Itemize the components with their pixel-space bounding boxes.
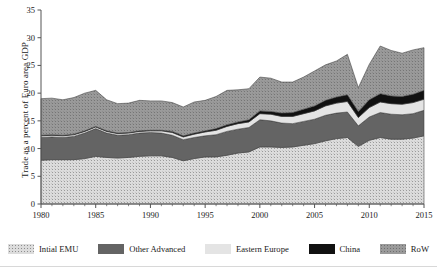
legend-swatch-other_advanced bbox=[98, 244, 124, 254]
chart-legend: Intial EMUOther AdvancedEastern EuropeCh… bbox=[0, 238, 437, 260]
area-series-group bbox=[41, 46, 424, 204]
x-tick-label: 1995 bbox=[197, 210, 214, 220]
y-tick-label: 35 bbox=[27, 5, 36, 15]
x-tick-label: 1980 bbox=[33, 210, 50, 220]
y-tick-label: 30 bbox=[27, 33, 36, 43]
y-tick-label: 10 bbox=[27, 144, 36, 154]
chart-figure: Trade as a percent of Euro area GDP 0510… bbox=[0, 0, 437, 272]
x-tick-label: 2000 bbox=[251, 210, 268, 220]
y-tick-label: 5 bbox=[31, 171, 35, 181]
y-tick-label: 20 bbox=[27, 88, 36, 98]
legend-label-other_advanced: Other Advanced bbox=[129, 244, 185, 254]
x-tick-label: 2015 bbox=[416, 210, 433, 220]
legend-item-row[interactable]: RoW bbox=[380, 244, 429, 254]
legend-swatch-initial_emu bbox=[8, 244, 34, 254]
legend-item-china[interactable]: China bbox=[309, 244, 361, 254]
legend-label-eastern_europe: Eastern Europe bbox=[236, 244, 289, 254]
legend-swatch-china bbox=[309, 244, 335, 254]
y-tick-label: 25 bbox=[27, 60, 36, 70]
legend-item-other_advanced[interactable]: Other Advanced bbox=[98, 244, 185, 254]
x-tick-label: 2005 bbox=[306, 210, 323, 220]
x-tick-label: 1985 bbox=[87, 210, 104, 220]
footer-divider bbox=[0, 266, 437, 267]
y-tick-label: 0 bbox=[31, 199, 35, 209]
legend-swatch-row bbox=[380, 244, 406, 254]
legend-label-initial_emu: Intial EMU bbox=[39, 244, 78, 254]
legend-label-china: China bbox=[340, 244, 361, 254]
legend-item-eastern_europe[interactable]: Eastern Europe bbox=[205, 244, 289, 254]
x-tick-label: 1990 bbox=[142, 210, 159, 220]
legend-swatch-eastern_europe bbox=[205, 244, 231, 254]
y-tick-label: 15 bbox=[27, 116, 36, 126]
legend-item-initial_emu[interactable]: Intial EMU bbox=[8, 244, 78, 254]
legend-label-row: RoW bbox=[411, 244, 429, 254]
x-tick-label: 2010 bbox=[361, 210, 378, 220]
stacked-area-plot: 0510152025303519801985199019952000200520… bbox=[0, 0, 437, 272]
